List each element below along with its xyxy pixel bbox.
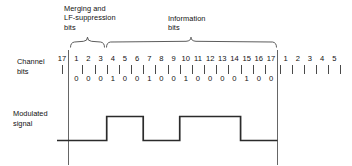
efm-timing-diagram: Merging and LF-suppression bits Informat… [0,0,352,166]
modulated-signal-waveform [57,117,278,141]
modulated-signal-waveform-layer [0,0,352,166]
